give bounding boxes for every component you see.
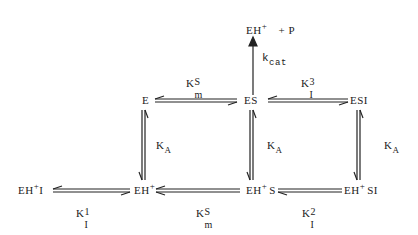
- label-KA-mid: KA: [267, 139, 282, 152]
- node-ES: ES: [244, 94, 258, 106]
- label-KmS-bottom: KSm: [196, 207, 204, 219]
- label-KI2: K2I: [302, 207, 310, 219]
- label-kcat: kcat: [262, 52, 287, 65]
- node-EH: EH+: [134, 184, 155, 197]
- node-product: EH+ + P: [246, 24, 295, 37]
- reaction-arrows: [0, 0, 418, 235]
- node-EHSI: EH+SI: [344, 184, 378, 197]
- label-KmS-top: KSm: [186, 77, 194, 89]
- node-EHS: EH+S: [246, 184, 276, 197]
- node-ESI: ESI: [350, 94, 368, 106]
- label-KA-left: KA: [156, 139, 171, 152]
- label-KA-right: KA: [384, 139, 399, 152]
- node-E: E: [142, 94, 149, 106]
- node-EHI: EH+I: [18, 184, 43, 197]
- label-KI1: K1I: [76, 207, 84, 219]
- label-KI3: K3I: [301, 77, 309, 89]
